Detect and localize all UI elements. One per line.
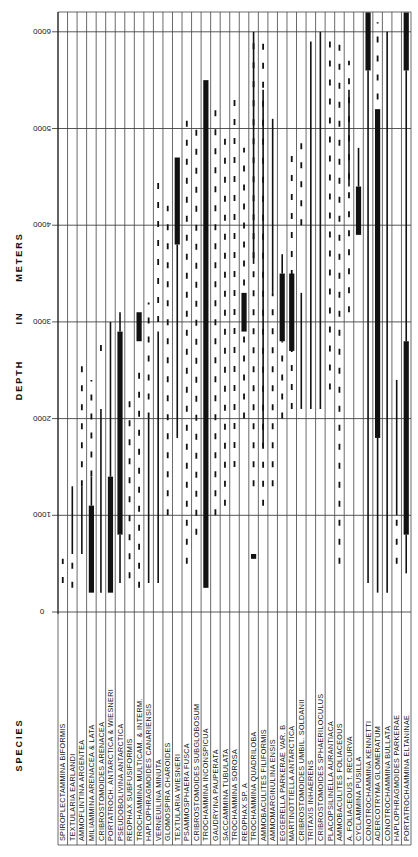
species-range: [289, 148, 294, 409]
species-label: SPIROPLECTAMMINA BIFORMIS: [58, 723, 67, 841]
species-label: AMMOBACULITES FOLIACEOUS: [335, 723, 344, 841]
species-range: [365, 12, 370, 583]
depth-range-chart: 0100020003000400050006000 SPIROPLECTAMMI…: [0, 0, 418, 857]
range-bar-abundant: [175, 158, 180, 245]
species-label: TRITAXIS INHAERENS: [306, 760, 315, 841]
species-label: CRIBROSTOMOIDES SPHAERILOCULUS: [316, 694, 325, 841]
species-label: PSAMMOSPHAERA FUSCA: [182, 743, 191, 841]
range-bar-abundant: [375, 109, 380, 438]
species-labels: SPIROPLECTAMMINA BIFORMISTEXTULARIA EARL…: [58, 689, 410, 841]
species-label: CRIBROSTOMOIDES ARENACEA: [97, 722, 106, 841]
species-range: [280, 254, 285, 418]
species-label: EGGERELLA PARKERAE VAR. B: [278, 725, 287, 841]
species-label: A. FOLIACEOUS f. RECURVA: [345, 736, 354, 841]
species-range: [136, 312, 141, 588]
range-bars: [63, 12, 409, 592]
y-axis-title-meters: METERS: [14, 232, 24, 282]
species-range: [117, 312, 122, 583]
x-axis-title-species: SPECIES: [14, 718, 24, 771]
range-bar-abundant: [203, 80, 208, 588]
species-label: ADERCOTRYMA GLOMERATUM: [373, 726, 382, 841]
species-label: VERNEUILINA MINUTA: [154, 759, 163, 841]
range-bar-abundant: [251, 554, 256, 559]
depth-tick-label: 5000: [33, 124, 51, 133]
range-bar-abundant: [280, 274, 285, 342]
species-label: PLACOPSILINELLA AURANTIACA: [326, 721, 335, 841]
y-axis-title-depth: DEPTH: [14, 360, 24, 401]
species-range: [375, 22, 380, 593]
range-bar-abundant: [117, 332, 122, 535]
species-range: [203, 80, 208, 588]
species-label: AMMOBACULITES FILIFORMIS: [259, 729, 268, 841]
species-label: TROCHAMMINA SOROSA: [230, 749, 239, 841]
range-bar-abundant: [365, 12, 370, 70]
species-label: GAUDRYINA PAUPERATA: [211, 749, 220, 841]
species-label: TROCHAMMINA MULTICAM. & INTERM.: [135, 698, 144, 841]
species-label: CRIBROSTOMOIDES SUBGLOBOSUM: [192, 704, 201, 841]
range-bar-abundant: [136, 312, 141, 341]
species-label: HAPLOPHRAGMOIDES PARKERAE: [392, 715, 401, 841]
species-label: PSEUDOBOLIVINA ANTARCTICA: [116, 723, 125, 841]
species-label: GLOMOSPIRA CHAROIDES: [163, 742, 172, 841]
species-label: AMMOFLINTINA ARGENTEA: [77, 740, 86, 841]
depth-tick-label: 1000: [33, 510, 51, 519]
species-label: CRIBROSTOMOIDES UMBIL. SOLDANII: [297, 699, 306, 841]
range-bar-abundant: [404, 12, 409, 70]
species-label: CYCLAMMINA PUSILLA: [354, 757, 363, 842]
depth-tick-label: 4000: [33, 220, 51, 229]
range-bar-abundant: [356, 187, 361, 235]
species-label: MILIAMMINA ARENACEA & LATA: [87, 724, 96, 841]
species-label: HAPLOPHRAGMOIDES CANARIENSIS: [144, 704, 153, 841]
species-label: CONOTROCHAMMINA BULLATA: [383, 726, 392, 841]
species-label: PORTATROCHAMMINA ELTANINAE: [402, 715, 411, 841]
species-label: TROCHAMMINA QUADRILOBA: [249, 731, 258, 841]
range-bar-abundant: [404, 341, 409, 534]
species-range: [89, 380, 94, 593]
species-range: [404, 12, 409, 573]
species-label: AMMOMARGINULINA ENSIS: [268, 739, 277, 841]
depth-tick-label: 0: [39, 607, 44, 616]
range-bar-abundant: [241, 293, 246, 332]
species-label: TEXTULARIA EARLANDI: [68, 753, 77, 841]
range-bar-abundant: [108, 477, 113, 593]
species-label: TROCHAMMINA INCONSPICUA: [201, 728, 210, 841]
species-label: CONOTROCHAMMINA KENNETTI: [364, 721, 373, 841]
species-label: MARTINOTTIELLA ANTARCTICA: [287, 726, 296, 841]
depth-tick-label: 3000: [33, 317, 51, 326]
species-label: TEXTULARIA WIESNERI: [173, 754, 182, 841]
species-label: REOPHAX SUBFUSIFORMIS: [125, 738, 134, 841]
species-range: [241, 148, 246, 419]
range-bar-abundant: [289, 274, 294, 351]
depth-tick-label: 6000: [33, 27, 51, 36]
species-label: SACCAMMINA TUBULATA: [221, 749, 230, 841]
species-label: REOPHAX SP. A: [240, 783, 249, 841]
species-range: [108, 322, 113, 593]
y-axis-ticks: 0100020003000400050006000: [33, 27, 51, 616]
depth-tick-label: 2000: [33, 414, 51, 423]
species-range: [251, 32, 256, 559]
y-axis-title-in: IN: [14, 312, 24, 325]
species-range: [175, 158, 180, 438]
species-label: PORTATROCH. ANTARCTICA & WIESNERI: [106, 689, 115, 841]
species-range: [356, 148, 361, 235]
range-bar-abundant: [89, 506, 94, 593]
